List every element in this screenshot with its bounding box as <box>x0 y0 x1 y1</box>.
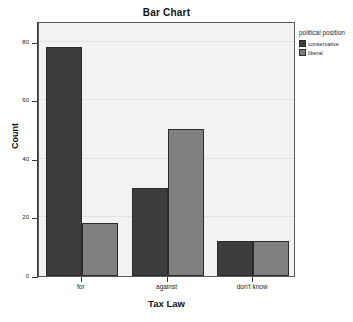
y-axis-tick-label: 0 <box>3 273 29 279</box>
legend-label-conservative: conservative <box>308 41 339 47</box>
x-axis-tick <box>252 277 253 282</box>
legend-label-liberal: liberal <box>308 50 323 56</box>
y-axis-title: Count <box>10 106 20 166</box>
bar-against-conservative <box>132 188 168 276</box>
y-axis-tick <box>32 218 37 219</box>
bar-against-liberal <box>168 129 204 276</box>
plot-inner <box>39 23 294 276</box>
y-axis-tick <box>32 43 37 44</box>
y-axis-tick <box>32 101 37 102</box>
gridline <box>39 41 294 42</box>
bar-don-t-know-conservative <box>217 241 253 276</box>
x-axis-tick-label: for <box>46 283 116 290</box>
y-axis-line <box>37 22 38 278</box>
bar-for-conservative <box>46 47 82 276</box>
legend-item-conservative: conservative <box>299 40 353 48</box>
bar-chart: Bar Chart 020406080 Count foragainstdon'… <box>0 0 353 322</box>
x-axis-title: Tax Law <box>38 298 295 309</box>
x-axis-tick-label: against <box>132 283 202 290</box>
y-axis-tick <box>32 160 37 161</box>
legend-title: political position <box>299 29 353 37</box>
legend-item-liberal: liberal <box>299 49 353 57</box>
y-axis-tick-label: 80 <box>3 39 29 45</box>
bar-for-liberal <box>82 223 118 276</box>
legend-swatch-liberal <box>299 49 306 56</box>
legend: political position conservativeliberal <box>299 29 353 58</box>
legend-items: conservativeliberal <box>299 40 353 57</box>
bar-don-t-know-liberal <box>253 241 289 276</box>
x-axis-tick <box>81 277 82 282</box>
x-axis-tick-label: don't know <box>217 283 287 290</box>
x-axis-tick <box>167 277 168 282</box>
chart-title: Bar Chart <box>38 7 295 18</box>
y-axis-tick-label: 20 <box>3 214 29 220</box>
legend-swatch-conservative <box>299 40 306 47</box>
y-axis-tick-label: 60 <box>3 97 29 103</box>
y-axis-tick <box>32 277 37 278</box>
plot-area <box>38 22 295 277</box>
